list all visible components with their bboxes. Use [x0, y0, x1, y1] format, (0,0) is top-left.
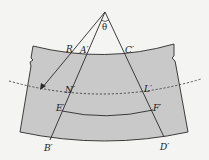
label-r: R — [65, 44, 73, 54]
label-f-prime: F′ — [152, 103, 161, 113]
label-d-prime: D′ — [159, 142, 169, 152]
label-a-prime: A′ — [79, 45, 89, 55]
slab-diagram: θ R A′ C′ N′ L′ E′ F′ B′ D′ — [0, 0, 209, 160]
label-b-prime: B′ — [43, 143, 53, 153]
label-e-prime: E′ — [55, 103, 65, 113]
label-theta: θ — [102, 22, 107, 32]
label-n-prime: N′ — [64, 85, 75, 95]
diagram-canvas: θ R A′ C′ N′ L′ E′ F′ B′ D′ — [0, 0, 209, 160]
curved-slab — [20, 44, 188, 141]
label-c-prime: C′ — [125, 45, 134, 55]
label-l-prime: L′ — [143, 84, 152, 94]
